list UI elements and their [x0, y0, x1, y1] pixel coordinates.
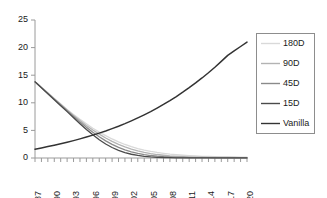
chart-legend: 180D90D45D15DVanilla: [257, 34, 315, 134]
series-line-vanilla: [35, 42, 247, 149]
legend-label-90d: 90D: [283, 58, 300, 68]
y-axis-tick-label: 25: [18, 14, 28, 24]
x-axis-tick-label: 108: [168, 191, 178, 198]
x-axis-minor-tick-group: [35, 158, 247, 162]
chart-container: 0510152025 87909396991021051081111141171…: [0, 0, 327, 198]
y-axis-tick-label: 0: [23, 152, 28, 162]
x-axis-tick-label: 105: [149, 191, 159, 198]
y-axis-tick-group: 0510152025: [18, 14, 35, 162]
x-axis-tick-label: 87: [33, 191, 43, 198]
x-axis-tick-label: 99: [110, 191, 120, 198]
x-axis-tick-label: 120: [245, 191, 255, 198]
line-chart: 0510152025 87909396991021051081111141171…: [0, 0, 327, 198]
series-line-15d: [35, 82, 247, 158]
x-axis-tick-label: 93: [71, 191, 81, 198]
x-axis-tick-label: 114: [206, 191, 216, 198]
y-axis-tick-label: 10: [18, 97, 28, 107]
series-group: [35, 42, 247, 158]
x-axis-tick-label: 111: [187, 191, 197, 198]
y-axis-tick-label: 15: [18, 70, 28, 80]
legend-label-45d: 45D: [283, 78, 300, 88]
legend-label-180d: 180D: [283, 38, 305, 48]
legend-label-vanilla: Vanilla: [283, 118, 309, 128]
y-axis-tick-label: 5: [23, 125, 28, 135]
series-line-90d: [35, 82, 247, 158]
series-line-45d: [35, 82, 247, 158]
x-axis-tick-label: 96: [91, 191, 101, 198]
series-line-180d: [35, 82, 247, 157]
y-axis-tick-label: 20: [18, 42, 28, 52]
legend-label-15d: 15D: [283, 98, 300, 108]
x-axis-tick-group: 8790939699102105108111114117120: [33, 191, 255, 198]
x-axis-tick-label: 90: [52, 191, 62, 198]
x-axis-tick-label: 117: [226, 191, 236, 198]
x-axis-tick-label: 102: [129, 191, 139, 198]
